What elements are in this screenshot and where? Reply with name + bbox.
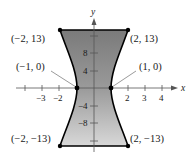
point-label-bottom-right: (2, −13) [130,133,164,145]
x-tick-label: −2 [53,93,63,103]
point-label-bottom-left: (−2, −13) [11,133,51,145]
x-tick-label: 2 [125,93,130,103]
x-tick-label: 4 [159,93,164,103]
x-axis-arrow-icon [171,86,178,91]
point-label-top-left: (−2, 13) [11,33,45,45]
point-marker [58,28,62,32]
leader-line [112,71,136,87]
point-marker [58,144,62,148]
leader-line [51,71,76,87]
point-marker [126,144,130,148]
y-tick-label: −4 [78,101,88,111]
y-axis-label: y [90,7,96,17]
hyperbola-region-chart: x y −3 −2 2 3 4 8 4 −4 −8 (−2, 13) (2, 1… [0,0,192,155]
point-label-top-right: (2, 13) [130,33,158,45]
point-label-mid-left: (−1, 0) [16,61,45,73]
point-marker [126,28,130,32]
y-tick-label: 8 [83,48,88,58]
point-marker [109,86,114,91]
x-tick-label: −3 [36,93,46,103]
y-tick-label: 4 [83,66,88,76]
x-tick-label: 3 [142,93,147,103]
x-axis-label: x [180,83,186,93]
y-tick-label: −8 [78,118,88,128]
y-axis-arrow-icon [92,18,97,25]
point-marker [75,86,80,91]
point-label-mid-right: (1, 0) [139,61,162,73]
